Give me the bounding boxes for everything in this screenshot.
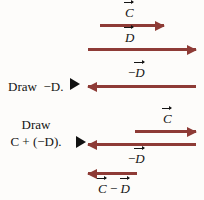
minus-sign: − (37, 134, 44, 149)
label-vector-c-given: C (125, 6, 134, 19)
cue-triangle-marker-first (70, 78, 80, 90)
vector-symbol-c: C (163, 112, 172, 125)
instruction-line-two: C + (−D). (2, 134, 70, 149)
label-negative-d-sum: −D (128, 152, 145, 165)
arrow-head-right (155, 21, 165, 31)
arrow-shaft (88, 85, 196, 88)
vector-subtraction-figure: C D Draw −D. −D Draw C + (−D). C (0, 0, 204, 200)
cue-triangle-marker-second (76, 136, 86, 148)
label-resultant-c-minus-d: C − D (98, 182, 130, 195)
label-vector-c-sum: C (163, 112, 172, 125)
label-negative-d: −D (128, 66, 145, 79)
instruction-word-draw: Draw (22, 117, 51, 132)
instruction-draw-negative-d: Draw −D. (8, 79, 63, 94)
arrow-shaft (88, 48, 196, 51)
vector-symbol-d: D (135, 66, 144, 79)
label-vector-d-given: D (125, 31, 134, 44)
vector-symbol-d: D (125, 31, 134, 44)
instruction-period: . (60, 79, 63, 94)
instruction-minus-sign: − (43, 79, 50, 94)
arrow-head-right (187, 45, 197, 55)
vector-symbol-d: D (135, 152, 144, 165)
arrow-head-left (87, 82, 97, 92)
arrow-head-left (87, 169, 97, 179)
vector-symbol-d: D (121, 182, 130, 195)
vector-symbol-c: C (98, 182, 107, 195)
vector-symbol-d: D (45, 134, 54, 149)
operator-plus: + (22, 134, 29, 149)
instruction-draw-c-plus-negative-d: Draw C + (−D). (2, 117, 70, 150)
vector-symbol-c: C (125, 6, 134, 19)
instruction-line-one: Draw (2, 117, 70, 132)
instruction-word-draw: Draw (8, 79, 37, 94)
instruction-period: . (58, 134, 61, 149)
arrow-head-left (87, 140, 97, 150)
vector-symbol-c: C (10, 134, 19, 149)
arrow-head-right (187, 127, 197, 137)
vector-symbol-d: D (51, 79, 60, 94)
